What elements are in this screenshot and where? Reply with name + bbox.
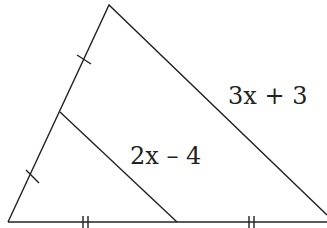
triangle-outline bbox=[8, 5, 327, 222]
tick-mark-left-lower bbox=[26, 170, 39, 183]
triangle-diagram bbox=[0, 0, 327, 228]
midsegment-length-label: 2x – 4 bbox=[130, 144, 201, 168]
side-length-label: 3x + 3 bbox=[228, 84, 307, 108]
tick-mark-left-upper bbox=[77, 55, 91, 64]
